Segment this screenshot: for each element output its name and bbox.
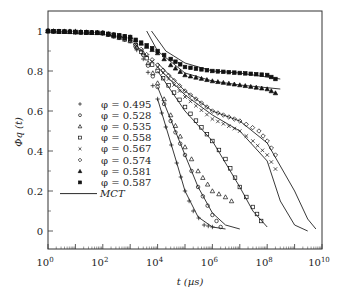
svg-text:φ = 0.581: φ = 0.581	[101, 166, 151, 177]
svg-text:φ = 0.535: φ = 0.535	[101, 121, 151, 132]
plot-frame	[48, 11, 322, 249]
x-tick-label: 108	[256, 256, 273, 268]
y-tick-label: 0.2	[27, 186, 43, 197]
svg-text:φ = 0.528: φ = 0.528	[101, 110, 151, 121]
x-tick-label: 106	[201, 256, 219, 268]
y-axis-title: Φq (t)	[13, 117, 24, 147]
y-tick-label: 0.8	[27, 66, 43, 77]
x-tick-label: 100	[36, 256, 53, 268]
svg-text:φ = 0.495: φ = 0.495	[101, 99, 151, 110]
x-axis-title: t (µs)	[177, 276, 204, 287]
y-tick-label: 1	[37, 26, 43, 37]
x-tick-label: 1010	[308, 256, 330, 268]
svg-text:MCT: MCT	[99, 188, 126, 199]
svg-text:φ = 0.587: φ = 0.587	[101, 177, 151, 188]
svg-text:φ = 0.567: φ = 0.567	[101, 143, 151, 154]
x-tick-label: 102	[91, 256, 108, 268]
svg-text:φ = 0.558: φ = 0.558	[101, 132, 151, 143]
y-tick-label: 0.4	[27, 146, 43, 157]
svg-text:φ = 0.574: φ = 0.574	[101, 155, 151, 166]
y-tick-label: 0	[37, 226, 43, 237]
x-tick-label: 104	[146, 256, 164, 268]
y-tick-label: 0.6	[27, 106, 43, 117]
relaxation-chart: 00.20.40.60.81 1001021041061081010 φ = 0…	[0, 0, 339, 296]
